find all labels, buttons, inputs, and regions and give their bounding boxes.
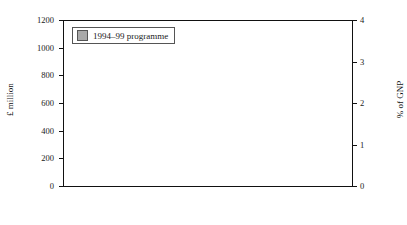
y-tick-label-left: 400 xyxy=(14,126,54,136)
y-tick-right xyxy=(353,20,357,21)
legend: 1994–99 programme xyxy=(72,27,175,44)
bar-series-group xyxy=(63,20,353,186)
y-tick-label-left: 600 xyxy=(14,98,54,108)
y-tick-right xyxy=(353,103,357,104)
y-tick-label-left: 200 xyxy=(14,153,54,163)
y-tick-right xyxy=(353,186,357,187)
y-tick-label-left: 1000 xyxy=(14,43,54,53)
y-tick-label-left: 0 xyxy=(14,181,54,191)
legend-label-programme: 1994–99 programme xyxy=(93,31,168,41)
legend-swatch-gray xyxy=(77,30,88,41)
y-tick-label-right: 2 xyxy=(360,98,380,108)
y-tick-label-left: 800 xyxy=(14,70,54,80)
y-tick-label-right: 1 xyxy=(360,140,380,150)
y-tick-label-left: 1200 xyxy=(14,15,54,25)
y-axis-label-right: % of GNP xyxy=(396,70,405,130)
axis-bottom xyxy=(63,186,354,187)
y-tick-left xyxy=(59,186,63,187)
y-tick-label-right: 3 xyxy=(360,57,380,67)
y-tick-right xyxy=(353,145,357,146)
chart-container: £ million % of GNP 020040060080010001200… xyxy=(0,0,407,225)
y-tick-label-right: 0 xyxy=(360,181,380,191)
y-tick-right xyxy=(353,62,357,63)
y-tick-label-right: 4 xyxy=(360,15,380,25)
